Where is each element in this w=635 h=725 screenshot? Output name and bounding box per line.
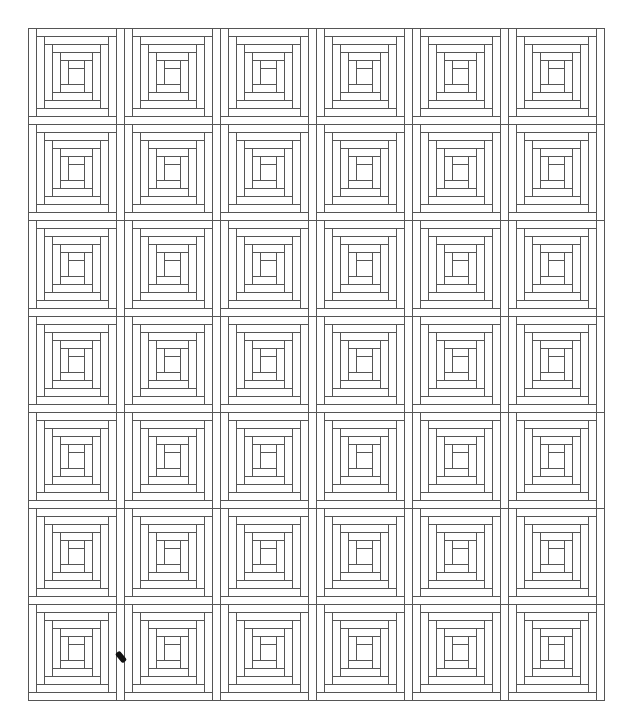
log-strip-left: [149, 533, 157, 573]
log-strip-top: [69, 541, 85, 549]
log-strip-right: [181, 61, 189, 93]
log-strip-bottom: [333, 101, 389, 109]
log-strip-bottom: [221, 117, 309, 125]
log-strip-top: [429, 325, 493, 333]
log-strip-top: [453, 637, 469, 645]
log-strip-bottom: [429, 197, 485, 205]
log-strip-top: [261, 253, 277, 261]
log-strip-right: [589, 133, 597, 213]
log-strip-top: [53, 141, 101, 149]
log-strip-left: [421, 517, 429, 589]
log-strip-left: [53, 341, 61, 381]
log-strip-left: [157, 349, 165, 373]
log-strip-top: [261, 445, 277, 453]
log-strip-bottom: [125, 309, 213, 317]
log-strip-bottom: [413, 117, 501, 125]
log-strip-right: [469, 349, 477, 381]
log-strip-bottom: [141, 197, 197, 205]
log-strip-bottom: [61, 85, 85, 93]
log-strip-top: [429, 37, 493, 45]
log-strip-right: [381, 437, 389, 485]
log-strip-right: [197, 237, 205, 301]
log-strip-bottom: [221, 405, 309, 413]
log-strip-left: [341, 53, 349, 93]
log-strip-left: [245, 149, 253, 189]
log-strip-top: [445, 341, 477, 349]
log-strip-right: [101, 333, 109, 397]
log-strip-top: [261, 541, 277, 549]
log-strip-right: [573, 53, 581, 101]
log-strip-left: [157, 541, 165, 565]
log-strip-top: [517, 317, 597, 325]
log-strip-top: [45, 421, 109, 429]
log-strip-right: [501, 509, 509, 605]
log-strip-top: [333, 325, 397, 333]
log-strip-bottom: [317, 117, 405, 125]
log-strip-top: [53, 621, 101, 629]
log-strip-right: [477, 53, 485, 101]
log-strip-left: [141, 621, 149, 677]
log-strip-top: [541, 533, 573, 541]
log-strip-right: [93, 533, 101, 581]
log-strip-left: [229, 229, 237, 301]
log-strip-left: [525, 333, 533, 389]
log-strip-left: [437, 437, 445, 477]
log-strip-top: [261, 637, 277, 645]
log-strip-top: [37, 125, 117, 133]
log-strip-bottom: [253, 565, 277, 573]
log-strip-bottom: [349, 85, 373, 93]
log-strip-top: [421, 125, 501, 133]
log-strip-left: [133, 37, 141, 109]
log-strip-left: [429, 141, 437, 197]
log-strip-left: [61, 637, 69, 661]
log-strip-top: [245, 525, 293, 533]
log-strip-bottom: [437, 669, 477, 677]
log-strip-left: [349, 157, 357, 181]
log-strip-top: [133, 221, 213, 229]
log-strip-top: [325, 125, 405, 133]
log-strip-top: [421, 413, 501, 421]
log-strip-bottom: [237, 677, 293, 685]
log-strip-right: [589, 421, 597, 501]
log-strip-top: [69, 61, 85, 69]
log-strip-left: [429, 525, 437, 581]
center-square: [69, 165, 85, 181]
log-strip-bottom: [157, 277, 181, 285]
log-strip-left: [61, 157, 69, 181]
log-strip-top: [237, 613, 301, 621]
log-strip-bottom: [149, 93, 189, 101]
log-strip-top: [149, 45, 197, 53]
log-strip-top: [37, 509, 117, 517]
log-strip-left: [541, 349, 549, 373]
log-strip-right: [85, 61, 93, 93]
log-strip-right: [565, 349, 573, 381]
log-strip-right: [573, 533, 581, 581]
log-strip-right: [389, 429, 397, 493]
log-strip-bottom: [421, 205, 493, 213]
log-strip-left: [157, 253, 165, 277]
log-strip-top: [157, 629, 189, 637]
log-strip-bottom: [37, 493, 109, 501]
log-strip-bottom: [421, 109, 493, 117]
log-strip-left: [133, 229, 141, 301]
log-strip-top: [453, 445, 469, 453]
log-strip-left: [229, 613, 237, 685]
log-strip-bottom: [221, 501, 309, 509]
log-strip-top: [357, 637, 373, 645]
log-strip-bottom: [253, 85, 277, 93]
log-strip-bottom: [229, 685, 301, 693]
center-square: [69, 453, 85, 469]
log-strip-bottom: [349, 277, 373, 285]
log-strip-top: [37, 317, 117, 325]
log-strip-left: [29, 29, 37, 117]
log-strip-left: [149, 629, 157, 669]
log-strip-bottom: [37, 397, 109, 405]
log-strip-left: [157, 637, 165, 661]
log-strip-top: [325, 413, 405, 421]
log-strip-left: [509, 509, 517, 597]
log-strip-left: [445, 61, 453, 85]
log-strip-left: [525, 237, 533, 293]
log-strip-bottom: [325, 493, 397, 501]
log-strip-bottom: [421, 685, 493, 693]
log-strip-bottom: [37, 589, 109, 597]
